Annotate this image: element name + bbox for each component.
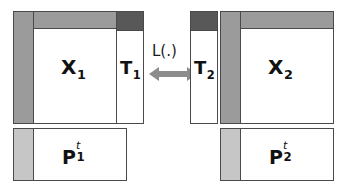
- x1-left-column: [13, 11, 34, 124]
- p1-label: Pt1: [62, 145, 85, 167]
- x2-left-column: [220, 11, 241, 124]
- p1-left-column: [13, 128, 34, 181]
- p2-label: Pt2: [269, 145, 292, 167]
- t2-label: T2: [194, 59, 215, 81]
- link-function-label: L(.): [152, 44, 177, 59]
- t1-top-band: [116, 11, 144, 31]
- p2-left-column: [220, 128, 241, 181]
- t2-top-band: [190, 11, 218, 31]
- x1-label: X1: [61, 57, 86, 82]
- diagram-canvas: X1 T1 Pt1 L(.) T2 X2: [0, 0, 346, 189]
- x2-label: X2: [268, 57, 293, 82]
- t1-label: T1: [120, 59, 141, 81]
